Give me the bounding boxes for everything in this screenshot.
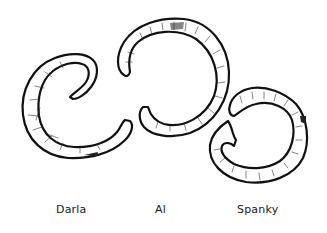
ring-al <box>118 19 229 136</box>
ring-spanky <box>210 88 307 183</box>
rings-illustration <box>0 0 327 233</box>
ring-darla <box>23 54 132 158</box>
label-al: Al <box>155 203 166 216</box>
label-spanky: Spanky <box>237 203 278 216</box>
label-darla: Darla <box>56 203 87 216</box>
